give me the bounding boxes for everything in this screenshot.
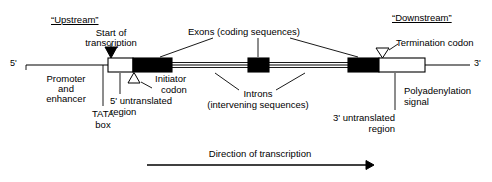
tata-box-label-line2: box	[80, 119, 126, 130]
exon-3-box	[348, 58, 379, 72]
five-prime-utr-label-line1: 5' untranslated	[110, 95, 172, 106]
exon-3-leader	[290, 38, 358, 57]
three-prime-utr-box	[379, 58, 425, 72]
promoter-label-line3: enhancer	[28, 93, 104, 104]
direction-arrow-head-icon	[366, 161, 374, 170]
introns-label-line2: (intervening sequences)	[196, 99, 320, 110]
direction-of-transcription-label: Direction of transcription	[180, 148, 340, 159]
initiator-codon-leader	[141, 82, 152, 88]
polyadenylation-signal-label-line2: signal	[404, 96, 429, 107]
three-prime-utr-label-line2: region	[300, 123, 395, 134]
initiator-codon-label-line1: Initiator	[155, 73, 186, 84]
start-of-transcription-label-line2: transcription	[76, 37, 146, 48]
upstream-label: “Upstream”	[51, 14, 99, 25]
termination-codon-label: Termination codon	[396, 37, 474, 48]
three-prime-end-label: 3'	[474, 58, 481, 68]
exon-1-box	[133, 58, 172, 72]
termination-codon-marker-icon	[376, 48, 389, 58]
introns-label-line1: Introns	[225, 88, 291, 99]
three-prime-utr-label-line1: 3' untranslated	[300, 112, 395, 123]
exon-1-leader	[160, 38, 213, 57]
gene-structure-diagram: “Upstream” “Downstream” Start of transcr…	[0, 0, 492, 182]
five-prime-end-label: 5'	[10, 58, 17, 68]
downstream-label: “Downstream”	[392, 12, 452, 23]
start-of-transcription-marker-icon	[105, 47, 117, 58]
exons-label: Exons (coding sequences)	[188, 26, 300, 37]
polyadenylation-signal-label-line1: Polyadenylation	[404, 85, 471, 96]
initiator-codon-label-line2: codon	[161, 84, 187, 95]
initiator-codon-marker-icon	[128, 73, 140, 84]
exon-2-box	[248, 58, 269, 72]
five-prime-utr-box	[108, 58, 133, 72]
five-prime-utr-label-line2: region	[110, 106, 136, 117]
